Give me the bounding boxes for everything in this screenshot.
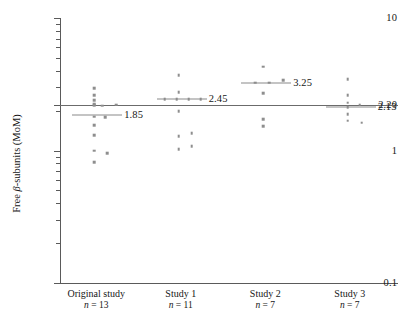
x-axis-group-name: Study 3 — [334, 288, 365, 299]
data-point — [93, 124, 96, 127]
data-point — [360, 121, 363, 124]
data-point — [346, 101, 349, 104]
data-point — [93, 149, 96, 152]
data-point — [93, 115, 96, 118]
data-point — [262, 65, 265, 68]
data-point — [106, 152, 109, 155]
plot-area: 1.852.453.252.13 — [60, 18, 398, 283]
median-line — [241, 82, 291, 83]
data-point — [101, 104, 104, 107]
median-line — [157, 98, 207, 99]
data-point — [115, 103, 118, 106]
data-point — [93, 161, 96, 164]
data-point — [93, 99, 96, 102]
x-axis-group-name: Original study — [68, 288, 126, 299]
data-point — [93, 87, 96, 90]
data-point — [262, 118, 265, 121]
data-point — [262, 92, 265, 95]
data-point — [177, 135, 180, 138]
x-axis-group-name: Study 2 — [250, 288, 281, 299]
median-line — [72, 115, 122, 116]
data-point — [93, 104, 96, 107]
data-point — [177, 91, 180, 94]
median-line — [326, 106, 376, 107]
median-value-label: 1.85 — [124, 110, 143, 120]
x-axis-group-label: Study 2n = 7 — [250, 288, 281, 311]
data-point — [346, 78, 349, 81]
x-axis-group-sample-size: n = 7 — [250, 300, 281, 312]
data-point — [190, 132, 193, 135]
median-value-label: 2.13 — [378, 102, 397, 112]
median-value-label: 3.25 — [293, 78, 312, 88]
x-axis-group-label: Study 1n = 11 — [165, 288, 196, 311]
x-axis-group-sample-size: n = 11 — [165, 300, 196, 312]
data-point — [346, 94, 349, 97]
data-point — [93, 134, 96, 137]
y-axis-major-tick — [54, 283, 60, 284]
x-axis-group-label: Original studyn = 13 — [68, 288, 126, 311]
y-axis-title: Free β-subunits (MoM) — [11, 64, 22, 264]
data-point — [282, 79, 285, 82]
median-value-label: 2.45 — [209, 94, 228, 104]
data-point — [177, 148, 180, 151]
data-point — [104, 116, 107, 119]
data-point — [93, 94, 96, 97]
x-axis-group-sample-size: n = 13 — [68, 300, 126, 312]
data-point — [177, 110, 180, 113]
data-point — [346, 113, 349, 116]
data-point — [177, 74, 180, 77]
x-axis-group-sample-size: n = 7 — [334, 300, 365, 312]
data-point — [262, 125, 265, 128]
x-axis-group-name: Study 1 — [165, 288, 196, 299]
data-point — [190, 145, 193, 148]
scatter-plot-chart: Free β-subunits (MoM) 102.2010.1 1.852.4… — [0, 0, 401, 318]
x-axis-group-label: Study 3n = 7 — [334, 288, 365, 311]
data-point — [346, 119, 349, 122]
